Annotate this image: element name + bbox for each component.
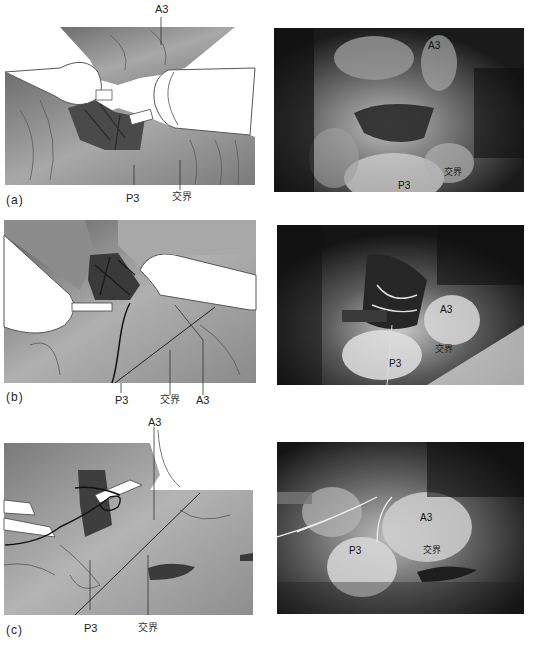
panel-b: (b) P3 交界 A3 A3 P3 交界 <box>0 215 533 415</box>
panel-c: A3 (c) P3 交界 A3 P3 交界 <box>0 415 533 633</box>
photo-label-junction: 交界 <box>435 345 453 354</box>
photo-label-a3: A3 <box>420 513 432 523</box>
photo-b: A3 P3 交界 <box>277 225 524 385</box>
illustration-c <box>0 415 262 620</box>
label-a3: A3 <box>196 395 209 406</box>
panel-a: A3 (a) P3 交界 A3 P3 交界 <box>0 0 533 205</box>
photo-label-p3: P3 <box>389 359 401 369</box>
panel-letter-b: (b) <box>6 390 24 404</box>
label-p3: P3 <box>115 395 128 406</box>
photo-label-junction: 交界 <box>423 546 441 555</box>
label-p3: P3 <box>126 193 139 204</box>
photo-label-p3: P3 <box>349 546 361 556</box>
photo-label-a3: A3 <box>428 41 440 51</box>
illustration-a <box>0 0 260 200</box>
illustration-b <box>0 215 260 390</box>
panel-letter-a: (a) <box>6 193 24 207</box>
photo-a: A3 P3 交界 <box>274 28 524 192</box>
label-a3: A3 <box>148 417 161 428</box>
photo-label-a3: A3 <box>440 305 452 315</box>
label-junction: 交界 <box>172 192 192 202</box>
photo-label-p3: P3 <box>398 181 410 191</box>
photo-c: A3 P3 交界 <box>277 442 524 614</box>
photo-label-junction: 交界 <box>444 168 462 177</box>
photo-a-texture <box>274 28 524 192</box>
photo-c-texture <box>277 442 524 614</box>
label-a3: A3 <box>155 4 168 15</box>
label-junction: 交界 <box>160 395 180 405</box>
figure-caption <box>0 632 533 642</box>
